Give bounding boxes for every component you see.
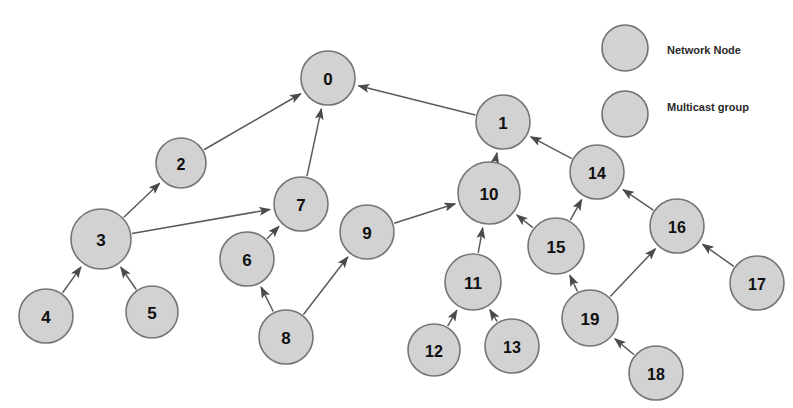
- node-circle-7[interactable]: [274, 177, 328, 231]
- node-circle-3[interactable]: [71, 209, 131, 269]
- edge-1-to-0: [359, 86, 476, 115]
- node-circle-0[interactable]: [301, 51, 355, 105]
- edge-3-to-7: [132, 209, 270, 233]
- network-node-7[interactable]: 7: [274, 177, 328, 231]
- network-node-1[interactable]: 1: [476, 95, 530, 149]
- edge-13-to-11: [490, 310, 497, 322]
- edge-5-to-3: [121, 267, 136, 289]
- network-node-9[interactable]: 9: [340, 205, 394, 259]
- edge-18-to-19: [615, 339, 634, 355]
- network-node-3[interactable]: 3: [71, 209, 131, 269]
- node-circle-5[interactable]: [126, 286, 178, 338]
- node-circle-8[interactable]: [259, 310, 313, 364]
- edge-9-to-10: [394, 204, 455, 224]
- network-node-19[interactable]: 19: [562, 290, 618, 346]
- edge-15-to-14: [570, 200, 581, 221]
- node-circle-6[interactable]: [220, 232, 274, 286]
- node-circle-14[interactable]: [570, 145, 624, 199]
- node-circle-16[interactable]: [650, 199, 704, 253]
- network-diagram-canvas: 012345678910111213141516171819 Network N…: [0, 0, 793, 408]
- legend-swatch-icon-1: [602, 91, 648, 137]
- network-node-13[interactable]: 13: [485, 319, 539, 373]
- node-circle-13[interactable]: [485, 319, 539, 373]
- edge-15-to-10: [517, 215, 533, 228]
- edge-11-to-10: [478, 228, 482, 253]
- node-circle-10[interactable]: [458, 162, 520, 224]
- node-circle-18[interactable]: [629, 346, 683, 400]
- legend-item-0: Network Node: [602, 25, 741, 71]
- network-node-8[interactable]: 8: [259, 310, 313, 364]
- edge-14-to-1: [531, 137, 572, 159]
- network-graph: 012345678910111213141516171819 Network N…: [0, 0, 793, 408]
- legend-item-1: Multicast group: [602, 91, 749, 137]
- edge-16-to-14: [623, 190, 653, 210]
- node-circle-2[interactable]: [156, 138, 206, 188]
- edge-12-to-11: [448, 310, 457, 326]
- edge-19-to-15: [570, 275, 578, 291]
- edge-8-to-9: [303, 257, 347, 314]
- legend-label-0: Network Node: [667, 44, 741, 56]
- legend-label-1: Multicast group: [667, 101, 749, 113]
- node-circle-9[interactable]: [340, 205, 394, 259]
- node-circle-12[interactable]: [408, 324, 460, 376]
- node-circle-1[interactable]: [476, 95, 530, 149]
- node-circle-17[interactable]: [730, 256, 784, 310]
- edge-7-to-0: [307, 109, 321, 176]
- network-node-10[interactable]: 10: [458, 162, 520, 224]
- edge-6-to-7: [267, 226, 279, 238]
- legend-swatch-icon-0: [602, 25, 648, 71]
- edge-8-to-6: [261, 287, 273, 311]
- node-circle-4[interactable]: [19, 289, 73, 343]
- node-circle-11[interactable]: [445, 254, 501, 310]
- edge-3-to-2: [124, 183, 160, 217]
- network-node-18[interactable]: 18: [629, 346, 683, 400]
- legend-layer: Network NodeMulticast group: [602, 25, 749, 137]
- network-node-2[interactable]: 2: [156, 138, 206, 188]
- edge-4-to-3: [63, 267, 81, 293]
- network-node-11[interactable]: 11: [445, 254, 501, 310]
- edge-19-to-16: [610, 249, 655, 297]
- node-circle-15[interactable]: [528, 218, 584, 274]
- network-node-0[interactable]: 0: [301, 51, 355, 105]
- network-node-5[interactable]: 5: [126, 286, 178, 338]
- network-node-15[interactable]: 15: [528, 218, 584, 274]
- network-node-4[interactable]: 4: [19, 289, 73, 343]
- edge-17-to-16: [703, 244, 734, 266]
- network-node-12[interactable]: 12: [408, 324, 460, 376]
- network-node-6[interactable]: 6: [220, 232, 274, 286]
- node-circle-19[interactable]: [562, 290, 618, 346]
- edge-2-to-0: [204, 94, 301, 150]
- network-node-16[interactable]: 16: [650, 199, 704, 253]
- network-node-17[interactable]: 17: [730, 256, 784, 310]
- network-node-14[interactable]: 14: [570, 145, 624, 199]
- edge-10-to-1: [495, 153, 497, 161]
